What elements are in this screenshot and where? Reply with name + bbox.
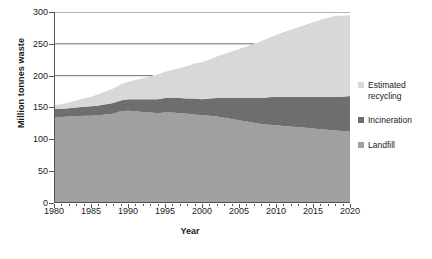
- legend-swatch-estimated-recycling: [358, 82, 364, 88]
- x-tick-mark-2001: [209, 204, 210, 206]
- y-tick-label-200: 200: [0, 71, 48, 81]
- x-tick-mark-1991: [135, 204, 136, 206]
- figure-stacked-area-waste: Million tonnes waste 300 250 200 150 100…: [0, 0, 432, 259]
- x-tick-label-2010: 2010: [256, 206, 296, 216]
- chart-legend: Estimated recycling Incineration Landfil…: [358, 80, 432, 150]
- x-tick-mark-2017: [328, 204, 329, 206]
- legend-item-estimated-recycling[interactable]: Estimated recycling: [358, 80, 432, 101]
- x-tick-mark-2007: [254, 204, 255, 206]
- y-tick-label-100: 100: [0, 134, 48, 144]
- x-tick-mark-1992: [143, 204, 144, 206]
- legend-label-estimated-recycling: Estimated recycling: [368, 80, 406, 101]
- legend-swatch-incineration: [358, 117, 364, 123]
- y-tick-label-50: 50: [0, 166, 48, 176]
- x-tick-mark-1981: [61, 204, 62, 206]
- x-tick-label-1985: 1985: [71, 206, 111, 216]
- legend-label-line1: Estimated: [368, 80, 406, 90]
- x-axis-title-text: Year: [180, 226, 199, 236]
- x-tick-label-2015: 2015: [293, 206, 333, 216]
- legend-item-landfill[interactable]: Landfill: [358, 140, 432, 151]
- y-tick-label-150: 150: [0, 102, 48, 112]
- x-tick-mark-1987: [106, 204, 107, 206]
- x-axis-title: Year: [0, 226, 432, 236]
- x-tick-mark-2012: [291, 204, 292, 206]
- x-tick-mark-2011: [283, 204, 284, 206]
- x-tick-label-1980: 1980: [34, 206, 74, 216]
- plot-area: [54, 12, 350, 203]
- x-tick-mark-1996: [172, 204, 173, 206]
- y-tick-label-300: 300: [0, 7, 48, 17]
- legend-swatch-landfill: [358, 142, 364, 148]
- legend-label-line2: recycling: [368, 91, 402, 101]
- x-tick-mark-2006: [246, 204, 247, 206]
- x-tick-mark-2002: [217, 204, 218, 206]
- x-tick-mark-2016: [320, 204, 321, 206]
- legend-label-incineration: Incineration: [368, 115, 412, 126]
- x-tick-label-2005: 2005: [219, 206, 259, 216]
- area-estimated-recycling: [54, 15, 350, 109]
- x-tick-label-2000: 2000: [182, 206, 222, 216]
- y-axis-title: Million tonnes waste: [16, 18, 26, 148]
- stacked-area-plot: [54, 12, 350, 203]
- x-tick-mark-1997: [180, 204, 181, 206]
- x-tick-mark-1986: [98, 204, 99, 206]
- y-tick-label-250: 250: [0, 39, 48, 49]
- legend-label-landfill: Landfill: [368, 140, 395, 151]
- x-tick-mark-1982: [69, 204, 70, 206]
- x-tick-label-2020: 2020: [330, 206, 370, 216]
- x-tick-label-1995: 1995: [145, 206, 185, 216]
- x-tick-label-1990: 1990: [108, 206, 148, 216]
- legend-item-incineration[interactable]: Incineration: [358, 115, 432, 126]
- figure-caption: [0, 252, 432, 259]
